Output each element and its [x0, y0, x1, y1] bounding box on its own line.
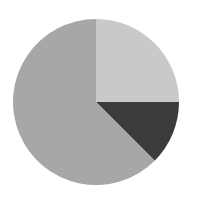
pie-chart [0, 0, 201, 199]
pie-slice-0 [96, 19, 179, 102]
pie-slices [13, 19, 179, 185]
